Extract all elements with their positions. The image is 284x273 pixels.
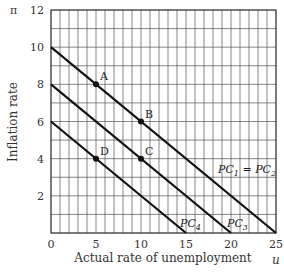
x-tick-label: 0 — [48, 238, 55, 251]
curve-label: PC4 — [179, 217, 201, 232]
axis-ticks: 051015202524681012 — [30, 4, 283, 251]
y-axis-label: Inflation rate — [6, 82, 20, 162]
y-tick-label: 2 — [37, 190, 44, 203]
data-point — [138, 156, 144, 162]
y-axis-symbol: π — [10, 4, 17, 17]
data-point — [138, 119, 144, 125]
y-tick-label: 12 — [30, 4, 44, 17]
x-tick-label: 25 — [269, 238, 283, 251]
x-tick-label: 15 — [179, 238, 193, 251]
y-tick-label: 8 — [37, 78, 44, 91]
y-tick-label: 10 — [30, 41, 44, 54]
x-tick-label: 20 — [224, 238, 238, 251]
point-label: A — [99, 70, 109, 83]
y-tick-label: 4 — [37, 153, 44, 166]
grid — [51, 10, 276, 233]
point-label: B — [145, 108, 153, 121]
curve-label: PC1 = PC2 — [217, 163, 276, 178]
curve-label: PC3 — [226, 217, 248, 232]
x-tick-label: 10 — [134, 238, 148, 251]
x-axis-symbol: u — [272, 253, 280, 267]
x-axis-label: Actual rate of unemployment — [73, 251, 252, 265]
y-tick-label: 6 — [37, 116, 44, 129]
point-label: C — [145, 145, 153, 158]
point-label: D — [100, 145, 109, 158]
phillips-curve-chart: PC1 = PC2PC3PC4 ABCD 051015202524681012 … — [0, 0, 284, 273]
x-tick-label: 5 — [93, 238, 100, 251]
data-point — [93, 81, 99, 87]
data-point — [93, 156, 99, 162]
